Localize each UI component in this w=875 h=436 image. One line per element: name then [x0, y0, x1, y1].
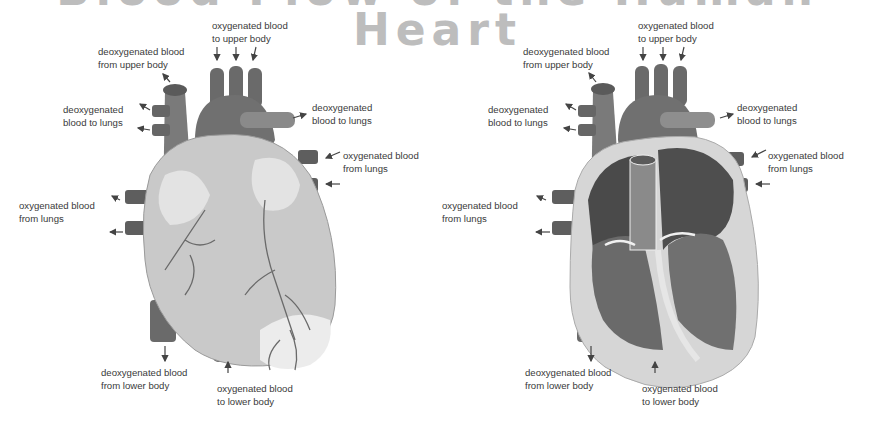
label-deoxygenated-from-upper-body: deoxygenated blood from upper body	[98, 46, 184, 71]
label-deoxygenated-to-lungs-right: deoxygenated blood to lungs	[312, 102, 372, 127]
label-deoxygenated-from-upper-body: deoxygenated blood from upper body	[523, 46, 609, 71]
label-oxygenated-to-upper-body: oxygenated blood to upper body	[212, 20, 288, 45]
label-deoxygenated-to-lungs-right: deoxygenated blood to lungs	[737, 102, 797, 127]
heart-cross-section-panel: oxygenated blood to upper body deoxygena…	[430, 0, 867, 436]
label-oxygenated-from-lungs-left: oxygenated blood from lungs	[442, 200, 518, 225]
label-deoxygenated-from-lower-body: deoxygenated blood from lower body	[101, 367, 187, 392]
label-oxygenated-to-lower-body: oxygenated blood to lower body	[217, 383, 293, 408]
label-oxygenated-from-lungs-right: oxygenated blood from lungs	[343, 150, 419, 175]
label-deoxygenated-to-lungs-left: deoxygenated blood to lungs	[63, 104, 123, 129]
heart-exterior-panel: oxygenated blood to upper body deoxygena…	[0, 0, 437, 436]
label-oxygenated-to-upper-body: oxygenated blood to upper body	[638, 20, 714, 45]
label-deoxygenated-to-lungs-left: deoxygenated blood to lungs	[488, 104, 548, 129]
label-deoxygenated-from-lower-body: deoxygenated blood from lower body	[525, 367, 611, 392]
label-oxygenated-from-lungs-right: oxygenated blood from lungs	[768, 150, 844, 175]
label-oxygenated-from-lungs-left: oxygenated blood from lungs	[19, 200, 95, 225]
label-oxygenated-to-lower-body: oxygenated blood to lower body	[642, 383, 718, 408]
